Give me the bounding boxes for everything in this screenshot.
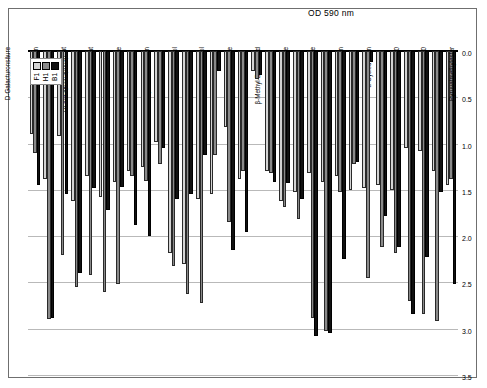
bar-group: Phenylethylamin [42, 51, 56, 374]
legend-label: F1 [34, 73, 41, 81]
bar-F1 [71, 51, 75, 201]
bar-F1 [376, 51, 380, 185]
bar-H1 [408, 51, 412, 301]
bar-B1 [425, 51, 429, 257]
bar-F1 [238, 51, 242, 179]
bar-group: i-Erythritol [319, 51, 333, 374]
legend-swatch [33, 62, 41, 70]
bar-H1 [158, 51, 162, 164]
bar-F1 [404, 51, 408, 148]
bar-H1 [89, 51, 93, 275]
bar-H1 [130, 51, 134, 176]
bar-F1 [432, 51, 436, 171]
bar-group: α-Cyclodextrin [403, 51, 417, 374]
y-axis-ticks: 0.00.51.01.52.02.53.03.5 [28, 14, 458, 48]
bar-F1 [349, 51, 353, 190]
bar-B1 [259, 51, 263, 75]
bar-H1 [422, 51, 426, 314]
bar-B1 [273, 51, 277, 182]
bar-B1 [245, 51, 249, 232]
bar-F1 [362, 51, 366, 188]
bar-B1 [78, 51, 82, 273]
bar-group: D-Galactonsäure γ-Lacton [236, 51, 250, 374]
bar-B1 [65, 51, 69, 194]
bar-F1 [196, 51, 200, 199]
bar-H1 [213, 51, 217, 155]
bar-H1 [116, 51, 120, 284]
bar-B1 [120, 51, 124, 187]
bar-F1 [168, 51, 172, 253]
bar-group: α-Ketobuttersäure [153, 51, 167, 374]
chart-page: OD 590 nm 0.00.51.01.52.02.53.03.5 Pyruv… [0, 0, 487, 388]
legend-entry: F1 [33, 62, 41, 81]
bar-F1 [127, 51, 131, 171]
bar-group: L-Serin [84, 51, 98, 374]
bar-H1 [394, 51, 398, 253]
bar-group: Glucose-1-Phosphat [264, 51, 278, 374]
bar-B1 [384, 51, 388, 216]
bar-B1 [328, 51, 332, 333]
bar-B1 [148, 51, 152, 236]
bar-H1 [324, 51, 328, 331]
bar-F1 [418, 51, 422, 151]
bar-group: γ-Hydroxybuttersäure [181, 51, 195, 374]
bar-group: L-Asparagin [111, 51, 125, 374]
bar-group: D-Galacturonsäure [222, 51, 236, 374]
bar-F1 [141, 51, 145, 167]
bar-chart: OD 590 nm 0.00.51.01.52.02.53.03.5 Pyruv… [28, 14, 458, 374]
bar-B1 [51, 51, 55, 318]
bar-F1 [335, 51, 339, 176]
bar-group: β-Methyl-D-Glucosid [347, 51, 361, 374]
bar-H1 [366, 51, 370, 278]
bar-H1 [227, 51, 231, 222]
gridline [28, 375, 458, 376]
bar-B1 [397, 51, 401, 247]
bar-B1 [342, 51, 346, 259]
legend: B1H1F1 [30, 58, 62, 85]
bar-group: Tween 80 [416, 51, 430, 374]
bar-H1 [352, 51, 356, 164]
bar-F1 [224, 51, 228, 127]
bar-B1 [134, 51, 138, 225]
bar-B1 [411, 51, 415, 314]
bar-F1 [85, 51, 89, 176]
legend-swatch [51, 62, 59, 70]
bar-H1 [172, 51, 176, 266]
rotated-chart-wrapper: OD 590 nm 0.00.51.01.52.02.53.03.5 Pyruv… [0, 0, 487, 388]
category-label: Pyruvatmethylester [448, 47, 455, 101]
bar-H1 [338, 51, 342, 192]
bar-group: D-Glucosaminsäure [278, 51, 292, 374]
bar-H1 [186, 51, 190, 294]
bar-F1 [307, 51, 311, 173]
bar-F1 [390, 51, 394, 190]
bar-group: Glycyl-L-Glutamat [56, 51, 70, 374]
bar-F1 [321, 51, 325, 182]
bar-group: Tween 40 [430, 51, 444, 374]
plot-area: PyruvatmethylesterTween 40Tween 80α-Cycl… [28, 50, 458, 374]
bar-F1 [113, 51, 117, 182]
bar-H1 [380, 51, 384, 247]
bar-group: α-D-Lactose [361, 51, 375, 374]
bar-B1 [231, 51, 235, 250]
bar-B1 [217, 51, 221, 71]
bar-B1 [314, 51, 318, 336]
bar-F1 [154, 51, 158, 142]
bar-groups: PyruvatmethylesterTween 40Tween 80α-Cycl… [28, 51, 458, 374]
legend-label: H1 [43, 73, 50, 81]
legend-label: B1 [52, 73, 59, 81]
bar-B1 [106, 51, 110, 210]
bar-group: D-Xylose [333, 51, 347, 374]
bar-B1 [175, 51, 179, 199]
bar-group: L-Phenylalanin [97, 51, 111, 374]
bar-group: 4-Hydroxybenzoesäure [194, 51, 208, 374]
bar-H1 [241, 51, 245, 171]
bar-H1 [435, 51, 439, 321]
bar-B1 [189, 51, 193, 194]
bar-group: L-Arginin [125, 51, 139, 374]
bar-F1 [210, 51, 214, 194]
bar-H1 [200, 51, 204, 303]
bar-F1 [279, 51, 283, 201]
bar-group: Putrescin [28, 51, 42, 374]
bar-F1 [251, 51, 255, 71]
bar-H1 [283, 51, 287, 207]
